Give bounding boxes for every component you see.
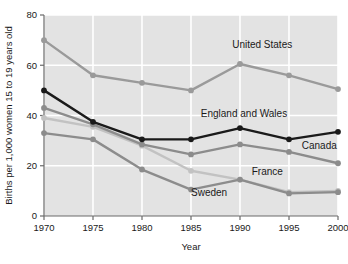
- x-axis-tick-label-1995: 1995: [278, 222, 299, 233]
- data-point: [188, 87, 194, 93]
- series-label-canada: Canada: [302, 140, 337, 151]
- data-point: [41, 130, 47, 136]
- chart-canvas: 0204060801970197519801985199019952000Yea…: [0, 0, 348, 264]
- x-axis-tick-label-2000: 2000: [327, 222, 348, 233]
- data-point: [188, 168, 194, 174]
- x-axis-tick-label-1975: 1975: [82, 222, 103, 233]
- x-axis-title: Year: [181, 241, 200, 252]
- x-axis-tick-label-1970: 1970: [33, 222, 54, 233]
- data-point: [335, 160, 341, 166]
- x-axis-tick-label-1980: 1980: [131, 222, 152, 233]
- series-label-sweden: Sweden: [191, 187, 227, 198]
- data-point: [139, 141, 145, 147]
- data-point: [41, 105, 47, 111]
- data-point: [90, 119, 96, 125]
- data-point: [286, 190, 292, 196]
- series-label-england-and-wales: England and Wales: [201, 108, 287, 119]
- y-axis-tick-label-40: 40: [26, 110, 37, 121]
- x-axis-tick-label-1990: 1990: [229, 222, 250, 233]
- teen-birth-rate-line-chart: 0204060801970197519801985199019952000Yea…: [0, 0, 348, 264]
- data-point: [335, 189, 341, 195]
- x-axis-tick-label-1985: 1985: [180, 222, 201, 233]
- data-point: [237, 177, 243, 183]
- data-point: [286, 72, 292, 78]
- y-axis-title: Births per 1,000 women 15 to 19 years ol…: [3, 26, 14, 205]
- data-point: [139, 80, 145, 86]
- data-point: [90, 72, 96, 78]
- data-point: [41, 87, 47, 93]
- y-axis-tick-label-60: 60: [26, 60, 37, 71]
- data-point: [139, 136, 145, 142]
- y-axis-tick-label-20: 20: [26, 160, 37, 171]
- data-point: [90, 136, 96, 142]
- data-point: [237, 141, 243, 147]
- data-point: [286, 149, 292, 155]
- series-label-france: France: [252, 166, 284, 177]
- data-point: [286, 136, 292, 142]
- data-point: [41, 115, 47, 121]
- y-axis-tick-label-80: 80: [26, 9, 37, 20]
- series-label-united-states: United States: [232, 39, 292, 50]
- data-point: [41, 37, 47, 43]
- data-point: [237, 61, 243, 67]
- data-point: [139, 167, 145, 173]
- data-point: [237, 125, 243, 131]
- data-point: [188, 136, 194, 142]
- data-point: [335, 86, 341, 92]
- y-axis-tick-label-0: 0: [32, 210, 37, 221]
- data-point: [188, 152, 194, 158]
- data-point: [335, 129, 341, 135]
